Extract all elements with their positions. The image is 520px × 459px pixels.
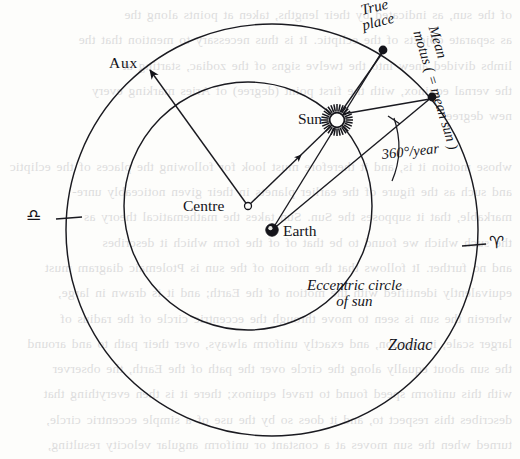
sun-to-mean-motus-line [343, 99, 430, 114]
aux-apse-line [150, 70, 248, 206]
earth-dot-icon [266, 224, 278, 236]
sun-to-true-place-line [341, 52, 383, 112]
true-place-point [379, 46, 388, 55]
label-centre: Centre [183, 197, 224, 215]
eccentric-label-line2: of sun [307, 293, 402, 309]
label-eccentric-circle-of-sun: Eccentric circle of sun [307, 277, 402, 309]
sun-star-icon [321, 104, 353, 136]
aries-tick-mark [462, 244, 486, 246]
centre-open-circle-icon [245, 203, 252, 210]
earth-dot-highlight [268, 226, 272, 230]
label-zodiac: Zodiac [388, 336, 432, 354]
eccentric-label-line1: Eccentric circle [307, 277, 402, 293]
centre-to-sun-line [248, 124, 333, 206]
annual-motion-arc-tick [388, 116, 400, 124]
label-earth: Earth [283, 222, 317, 240]
label-aux: Aux [109, 54, 138, 72]
aries-zodiac-icon: ♈ [489, 232, 504, 252]
figure-page: of the sun, as indicated by their length… [0, 0, 520, 459]
libra-tick-mark [56, 217, 82, 219]
label-sun: Sun [298, 110, 322, 128]
libra-zodiac-icon: ♎ [26, 205, 41, 225]
